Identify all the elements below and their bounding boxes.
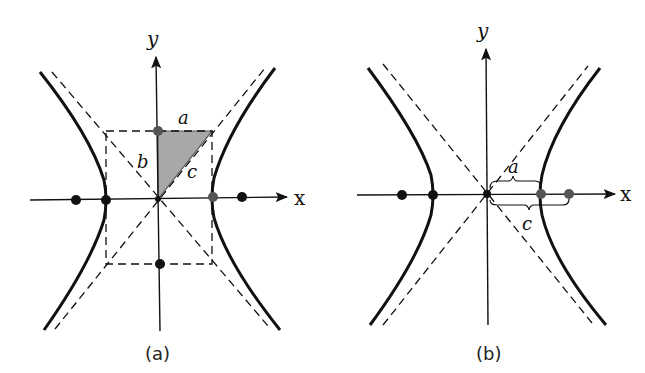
label-a-segment: a (178, 107, 189, 128)
brace-c (490, 199, 569, 210)
covertex-top (153, 126, 163, 136)
label-c-distance: c (522, 213, 532, 234)
axis-y-label-b: y (476, 19, 489, 43)
vertex-right (536, 189, 546, 199)
y-axis (486, 49, 488, 325)
label-b-segment: b (137, 151, 149, 172)
vertex-left (101, 195, 111, 205)
focus-right (564, 189, 574, 199)
center-point (483, 190, 491, 198)
axis-y-label-a: y (146, 27, 159, 51)
label-c-segment: c (187, 161, 197, 182)
hyperbola-figure: y x a b c (a) y x a c (b) (0, 0, 645, 373)
focus-left (71, 195, 81, 205)
vertex-left (428, 190, 438, 200)
label-a-distance: a (508, 156, 519, 177)
shaded-triangle (158, 131, 212, 199)
caption-a: (a) (145, 343, 170, 364)
brace-a (490, 176, 541, 188)
panel-b: y x a c (b) (357, 19, 632, 364)
axis-x-label-b: x (620, 182, 632, 206)
panel-a: y x a b c (a) (30, 27, 306, 364)
center-point (155, 196, 161, 202)
caption-b: (b) (476, 343, 501, 364)
covertex-bottom (155, 259, 165, 269)
focus-right (237, 192, 247, 202)
vertex-right (208, 192, 218, 202)
axis-x-label-a: x (294, 186, 306, 210)
focus-left (397, 190, 407, 200)
